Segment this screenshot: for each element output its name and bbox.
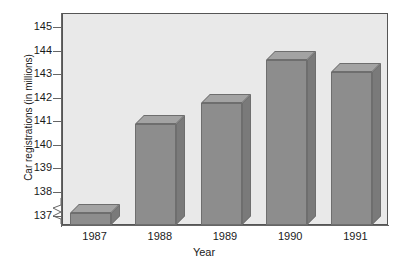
bar-1990 xyxy=(266,51,316,225)
bar-chart: 137138139140141142143144145 198719881989… xyxy=(0,0,408,264)
y-axis-tick xyxy=(53,27,62,28)
bar-top-face xyxy=(135,115,185,124)
y-axis-tick xyxy=(53,98,62,99)
bar-front-face xyxy=(70,213,111,225)
y-axis-tick xyxy=(53,145,62,146)
y-axis-tick-labels: 137138139140141142143144145 xyxy=(16,0,52,264)
y-axis-tick xyxy=(53,192,62,193)
bar-top-face xyxy=(201,94,251,103)
x-axis-tick-label: 1989 xyxy=(193,230,257,242)
x-axis-line xyxy=(61,225,389,226)
bar-side-face xyxy=(242,94,251,225)
bar-front-face xyxy=(201,103,242,225)
bar-front-face xyxy=(266,60,307,225)
x-axis-title: Year xyxy=(0,246,408,258)
bar-front-face xyxy=(331,72,372,225)
x-axis-tick-label: 1987 xyxy=(63,230,127,242)
x-axis-tick-label: 1991 xyxy=(323,230,387,242)
bar-1991 xyxy=(331,63,381,225)
y-axis-tick-label: 145 xyxy=(22,21,52,32)
x-axis-tick-label: 1990 xyxy=(258,230,322,242)
y-axis-tick-label: 137 xyxy=(22,210,52,221)
y-axis-tick xyxy=(53,51,62,52)
y-axis-tick xyxy=(53,168,62,169)
bar-side-face xyxy=(176,115,185,225)
bar-1988 xyxy=(135,115,185,225)
axis-break-icon xyxy=(50,198,66,224)
bar-1987 xyxy=(70,204,120,225)
y-axis-title: Car registrations (in millions) xyxy=(23,38,34,198)
y-axis-tick xyxy=(53,121,62,122)
bar-side-face xyxy=(372,63,381,225)
x-axis-tick-label: 1988 xyxy=(128,230,192,242)
y-axis-tick xyxy=(53,74,62,75)
bar-1989 xyxy=(201,94,251,225)
y-axis-tick xyxy=(53,216,62,217)
y-axis-line xyxy=(61,13,62,227)
bar-side-face xyxy=(307,51,316,225)
bar-front-face xyxy=(135,124,176,225)
